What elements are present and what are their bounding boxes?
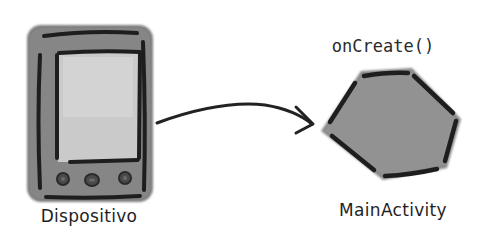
arrow-icon <box>157 104 313 133</box>
device-icon <box>27 25 153 202</box>
device-label: Dispositivo <box>26 206 152 226</box>
method-label: onCreate() <box>318 36 448 56</box>
hexagon-icon <box>321 68 461 180</box>
activity-label: MainActivity <box>318 200 468 220</box>
